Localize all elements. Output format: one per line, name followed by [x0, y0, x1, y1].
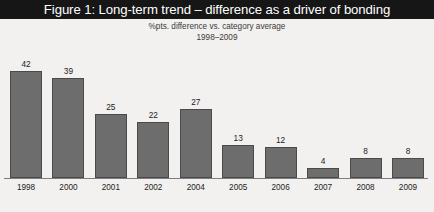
chart-plot-area: 42392522271312488	[10, 52, 424, 178]
x-axis-tick-label: 2001	[95, 183, 127, 193]
bar-value-label: 13	[234, 134, 243, 143]
subtitle-line-1: %pts. difference vs. category average	[0, 22, 434, 33]
x-axis-tick-label: 1998	[10, 183, 42, 193]
figure-container: Figure 1: Long-term trend – difference a…	[0, 0, 434, 212]
bar[interactable]	[307, 168, 339, 178]
bar-value-label: 25	[106, 103, 115, 112]
bar[interactable]	[10, 71, 42, 178]
x-axis-tick-label: 2006	[265, 183, 297, 193]
bar[interactable]	[350, 158, 382, 178]
bar[interactable]	[137, 122, 169, 178]
x-axis-tick-label: 2009	[392, 183, 424, 193]
bar-slot: 22	[137, 52, 169, 178]
bar[interactable]	[180, 109, 212, 178]
bar[interactable]	[265, 147, 297, 178]
bar[interactable]	[95, 114, 127, 178]
bar-slot: 8	[350, 52, 382, 178]
bar-slot: 4	[307, 52, 339, 178]
bar[interactable]	[222, 145, 254, 178]
x-axis-tick-labels: 1998200020012002200420052006200720082009	[10, 183, 424, 193]
bar[interactable]	[392, 158, 424, 178]
bar-slot: 25	[95, 52, 127, 178]
bar-value-label: 39	[64, 67, 73, 76]
bar-slot: 42	[10, 52, 42, 178]
bar-value-label: 12	[276, 136, 285, 145]
bar-value-label: 8	[406, 147, 411, 156]
bar-slot: 12	[265, 52, 297, 178]
subtitle-line-2: 1998–2009	[0, 33, 434, 44]
x-axis-tick-label: 2005	[222, 183, 254, 193]
bar-slot: 8	[392, 52, 424, 178]
bar[interactable]	[52, 78, 84, 178]
figure-subtitle: %pts. difference vs. category average 19…	[0, 22, 434, 43]
bar-value-label: 27	[191, 98, 200, 107]
bar-value-label: 8	[363, 147, 368, 156]
bar-value-label: 22	[149, 111, 158, 120]
bar-slot: 13	[222, 52, 254, 178]
bar-value-label: 42	[21, 60, 30, 69]
bar-value-label: 4	[321, 157, 326, 166]
bar-series: 42392522271312488	[10, 52, 424, 178]
x-axis-line	[4, 178, 428, 179]
figure-title-bar: Figure 1: Long-term trend – difference a…	[0, 0, 434, 19]
x-axis-tick-label: 2007	[307, 183, 339, 193]
bar-slot: 39	[52, 52, 84, 178]
bar-slot: 27	[180, 52, 212, 178]
x-axis-tick-label: 2004	[180, 183, 212, 193]
x-axis-tick-label: 2008	[350, 183, 382, 193]
x-axis-tick-label: 2000	[52, 183, 84, 193]
figure-title: Figure 1: Long-term trend – difference a…	[44, 2, 390, 17]
x-axis-tick-label: 2002	[137, 183, 169, 193]
